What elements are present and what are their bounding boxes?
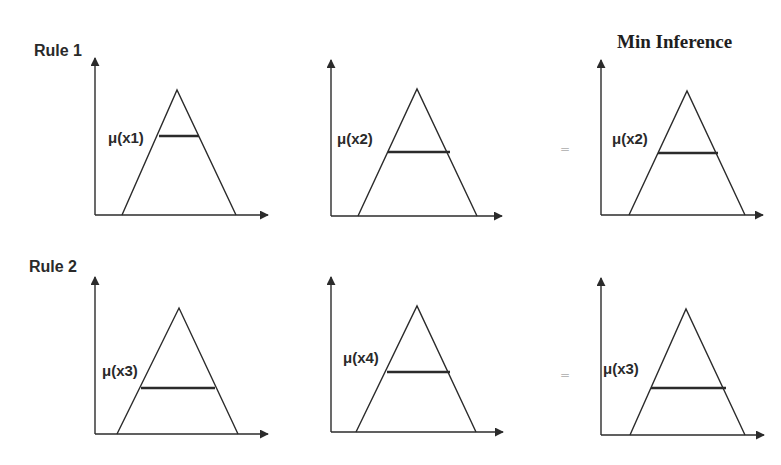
triangular-membership-function: [117, 308, 238, 434]
triangular-membership-function: [122, 90, 236, 215]
rule-2-panel-1: [95, 277, 268, 434]
rule-1-panel-result: [601, 60, 763, 215]
triangular-membership-function: [630, 309, 745, 435]
rule-1-panel-2: [331, 60, 502, 216]
rule-2-panel-2: [331, 277, 503, 432]
min-inference-diagram: Min Inference Rule 1 Rule 2 μ(x1) μ(x2) …: [0, 0, 781, 465]
rule-2-panel-result: [601, 278, 764, 435]
rule-1-panel-1: [95, 58, 268, 215]
membership-function-plots: [0, 0, 781, 465]
triangular-membership-function: [356, 306, 476, 432]
